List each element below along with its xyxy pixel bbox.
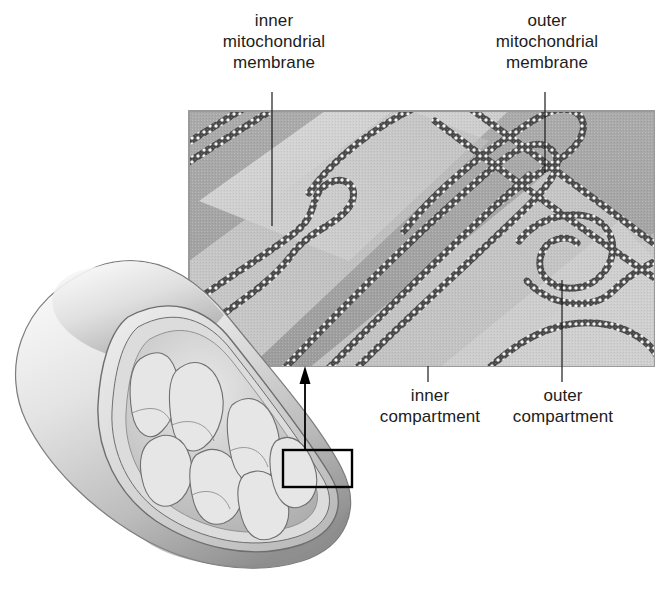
mitochondrion-illustration xyxy=(0,255,360,590)
figure-canvas: inner mitochondrial membrane outer mitoc… xyxy=(0,0,667,590)
label-outer-compartment: outer compartment xyxy=(498,385,628,427)
label-inner-mitochondrial-membrane: inner mitochondrial membrane xyxy=(188,10,360,73)
label-inner-compartment: inner compartment xyxy=(368,385,492,427)
label-outer-mitochondrial-membrane: outer mitochondrial membrane xyxy=(452,10,642,73)
